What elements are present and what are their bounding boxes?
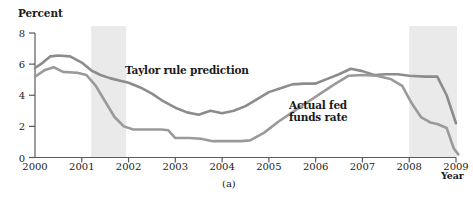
y-tick-label: 8 — [13, 28, 25, 39]
taylor-rule-series-label: Taylor rule prediction — [125, 64, 249, 76]
x-tick-label: 2000 — [22, 161, 47, 172]
y-axis-title: Percent — [18, 7, 63, 19]
x-tick-label: 2003 — [163, 161, 188, 172]
y-tick-label: 2 — [13, 121, 25, 132]
x-tick-label: 2006 — [303, 161, 328, 172]
x-tick-label: 2007 — [350, 161, 375, 172]
x-tick-label: 2009 — [443, 161, 468, 172]
y-tick-label: 6 — [13, 59, 25, 70]
annotation-line: Actual fed — [289, 99, 348, 111]
x-tick-label: 2004 — [209, 161, 234, 172]
recession-2001 — [91, 26, 126, 158]
panel-caption: (a) — [222, 178, 236, 189]
actual-fed-funds-series-label: Actual fedfunds rate — [289, 99, 348, 123]
annotation-line: Taylor rule prediction — [125, 64, 249, 76]
figure-container: Percent Year Taylor rule prediction Actu… — [0, 0, 473, 201]
y-tick-label: 4 — [13, 90, 25, 101]
annotation-line: funds rate — [289, 111, 348, 123]
x-tick-label: 2001 — [69, 161, 94, 172]
x-tick-label: 2002 — [116, 161, 141, 172]
y-axis-ticks — [29, 33, 35, 158]
x-tick-label: 2008 — [396, 161, 421, 172]
x-tick-label: 2005 — [256, 161, 281, 172]
